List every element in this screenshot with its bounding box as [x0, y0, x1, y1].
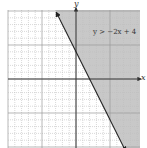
x-axis-label: x [141, 73, 146, 82]
y-axis-label: y [74, 0, 79, 8]
inequality-label: y > −2x + 4 [93, 28, 136, 36]
inequality-graph [0, 0, 147, 148]
